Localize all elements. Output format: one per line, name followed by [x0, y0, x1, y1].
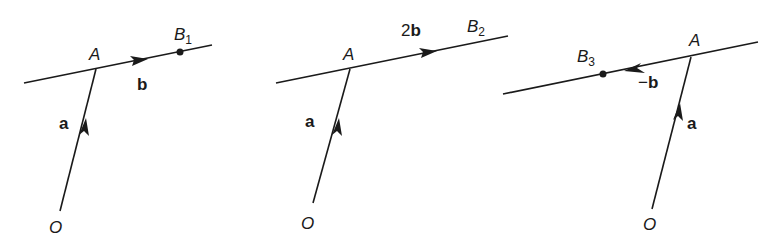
label-vector-a-1: a [59, 115, 68, 132]
label-vector-neg-b: −b [638, 74, 658, 91]
label-origin-2: O [301, 215, 314, 232]
label-b-subscript: 1 [185, 33, 192, 47]
vector-a-2 [313, 69, 350, 203]
line-through-a-2 [276, 36, 508, 83]
point-b1 [177, 49, 184, 56]
label-point-b3: B3 [577, 48, 595, 68]
label-point-a-2: A [343, 46, 354, 63]
label-b-vector: b [410, 21, 420, 40]
label-origin-3: O [643, 216, 656, 233]
label-b-subscript: 3 [588, 55, 595, 69]
label-origin-1: O [49, 219, 62, 236]
label-vector-2b: 2b [401, 22, 421, 39]
label-vector-a-3: a [687, 115, 696, 132]
label-vector-b-1: b [137, 76, 147, 93]
line-through-a-1 [24, 45, 212, 83]
vector-diagram [0, 0, 782, 249]
label-point-a-3: A [689, 32, 700, 49]
label-point-b1: B1 [174, 26, 192, 46]
label-b-letter: B [174, 25, 185, 44]
label-point-b2: B2 [467, 18, 485, 38]
label-b-letter: B [467, 17, 478, 36]
label-b-vector: b [648, 73, 658, 92]
label-point-a-1: A [89, 46, 100, 63]
label-vector-a-2: a [305, 113, 314, 130]
label-b-letter: B [577, 47, 588, 66]
label-minus-sign: − [638, 73, 648, 92]
label-b-subscript: 2 [478, 25, 485, 39]
vector-a-1 [60, 69, 96, 211]
point-b3 [600, 71, 607, 78]
